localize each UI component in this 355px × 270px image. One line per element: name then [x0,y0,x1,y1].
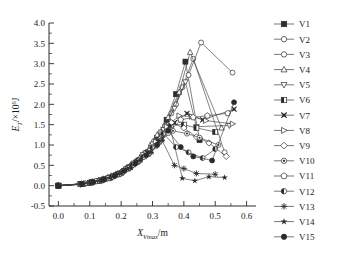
marker-dot-circle [186,133,188,135]
legend-item-V4[interactable]: V4 [274,65,310,75]
legend-item-V7[interactable]: V7 [274,111,310,121]
marker-filled-circle [56,183,61,188]
series-V2 [56,56,227,188]
legend-label-V8: V8 [299,126,310,136]
marker-open-triangle-up [187,49,193,54]
marker-filled-circle [191,154,196,159]
legend-item-V6[interactable]: V6 [274,95,310,105]
x-tick-label: 0.4 [178,211,190,221]
marker-right-triangle [282,127,288,133]
marker-star [179,175,185,181]
marker-open-circle [281,37,286,42]
marker-open-triangle-down [281,83,287,89]
x-tick-label: 0.2 [116,211,127,221]
marker-filled-circle [144,153,149,158]
y-tick-label: 2.5 [34,79,46,89]
chart-container: -0.50.00.51.01.52.02.53.03.54.00.00.10.2… [0,0,355,270]
marker-open-circle [281,52,286,57]
marker-filled-square [281,21,286,26]
marker-half-square [213,129,216,134]
energy-vs-xvmax-scatter-line-chart: -0.50.00.51.01.52.02.53.03.54.00.00.10.2… [0,0,355,270]
marker-filled-circle [155,143,160,148]
legend-label-V12: V12 [299,187,315,197]
legend-label-V3: V3 [299,50,310,60]
legend-label-V4: V4 [299,65,310,75]
marker-filled-circle [166,128,171,133]
marker-x-cross [233,108,236,111]
marker-open-circle [186,73,191,78]
x-tick-label: 0.3 [147,211,159,221]
x-tick-label: 0.0 [53,211,65,221]
marker-dot-circle [198,137,200,139]
y-axis-title: ET/×106J [10,97,23,132]
marker-open-diamond [281,142,288,149]
marker-open-triangle-up [281,66,287,72]
legend: V1V2V3V4V5V6V7V8V9V10V11V12V13V14V15 [274,19,315,242]
legend-item-V14[interactable]: V14 [274,217,315,227]
marker-filled-circle [90,180,95,185]
y-tick-label: 3.0 [34,59,46,69]
y-tick-label: -0.5 [31,201,46,211]
legend-label-V15: V15 [299,232,315,242]
legend-label-V1: V1 [299,19,310,29]
series-line-V11 [58,113,227,185]
series-line-V2 [58,59,224,186]
legend-label-V14: V14 [299,217,315,227]
y-tick-label: 2.0 [34,100,46,110]
marker-filled-circle [281,234,286,239]
marker-filled-circle [79,182,84,187]
y-axis-ticks: -0.50.00.51.01.52.02.53.03.54.0 [31,18,54,211]
series-line-V4 [58,52,221,185]
marker-x-cross [283,114,286,117]
marker-filled-circle [232,100,237,105]
marker-x-cross [186,112,189,115]
marker-pentagon [281,173,287,179]
x-axis-ticks: 0.00.10.20.30.40.50.6 [53,201,253,221]
marker-open-circle [230,70,235,75]
legend-label-V2: V2 [299,35,310,45]
y-tick-label: 3.5 [34,39,46,49]
marker-filled-circle [112,173,117,178]
legend-item-V1[interactable]: V1 [274,19,310,29]
x-tick-label: 0.1 [84,211,95,221]
legend-label-V7: V7 [299,111,310,121]
y-tick-label: 4.0 [34,18,46,28]
legend-item-V5[interactable]: V5 [274,80,310,90]
marker-dot-circle [283,160,285,162]
marker-filled-circle [133,161,138,166]
x-axis-title: XVmax/m [136,228,168,240]
marker-filled-circle [210,158,215,163]
y-tick-label: 1.5 [34,120,46,130]
marker-dot-circle [172,130,174,132]
marker-pentagon [205,113,211,118]
legend-label-V5: V5 [299,80,310,90]
data-series [55,40,236,189]
legend-item-V3[interactable]: V3 [274,50,310,60]
legend-item-V9[interactable]: V9 [274,141,310,151]
y-tick-label: 1.0 [34,140,46,150]
y-tick-label: 0.0 [34,181,46,191]
legend-item-V15[interactable]: V15 [274,232,315,242]
legend-label-V9: V9 [299,141,310,151]
marker-filled-circle [101,177,106,182]
marker-right-triangle [230,121,235,127]
legend-item-V11[interactable]: V11 [274,171,314,181]
legend-label-V11: V11 [299,171,314,181]
marker-half-square [194,125,197,130]
marker-open-circle [199,40,204,45]
legend-label-V6: V6 [299,95,310,105]
legend-item-V2[interactable]: V2 [274,35,310,45]
x-tick-label: 0.5 [210,211,222,221]
marker-filled-circle [122,169,127,174]
axes: -0.50.00.51.01.52.02.53.03.54.0 [31,18,256,211]
marker-half-square [281,97,284,102]
legend-label-V13: V13 [299,202,315,212]
legend-item-V12[interactable]: V12 [274,187,315,197]
legend-item-V8[interactable]: V8 [274,126,310,136]
legend-item-V13[interactable]: V13 [274,202,315,212]
legend-label-V10: V10 [299,156,315,166]
marker-filled-circle [178,145,183,150]
y-tick-label: 0.5 [34,161,46,171]
legend-item-V10[interactable]: V10 [274,156,315,166]
x-tick-label: 0.6 [241,211,253,221]
